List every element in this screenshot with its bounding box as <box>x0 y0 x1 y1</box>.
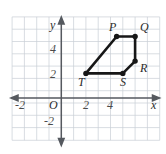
y-tick-neg2: -2 <box>44 115 54 127</box>
vertex-r-dot <box>132 58 137 63</box>
vertex-label-p: P <box>109 21 116 33</box>
y-tick-2: 2 <box>50 68 56 80</box>
vertex-label-t: T <box>78 76 85 88</box>
vertex-label-s: S <box>120 76 126 88</box>
vertex-label-r: R <box>140 62 147 74</box>
x-tick-2: 2 <box>83 99 89 111</box>
x-tick-4: 4 <box>107 99 113 111</box>
y-axis-arrow-down <box>59 139 65 146</box>
x-tick-neg2: -2 <box>15 99 25 111</box>
vertex-p-dot <box>114 34 119 39</box>
y-tick-4: 4 <box>50 43 56 55</box>
vertex-label-q: Q <box>140 21 149 33</box>
y-axis-arrow-up <box>59 17 65 24</box>
vertex-q-dot <box>132 34 137 39</box>
coordinate-plane-figure: y x O -2 2 4 4 2 -2 P Q R S T <box>0 0 166 154</box>
origin-label: O <box>49 99 58 111</box>
x-axis-label: x <box>151 99 156 111</box>
y-axis-label: y <box>50 19 55 31</box>
